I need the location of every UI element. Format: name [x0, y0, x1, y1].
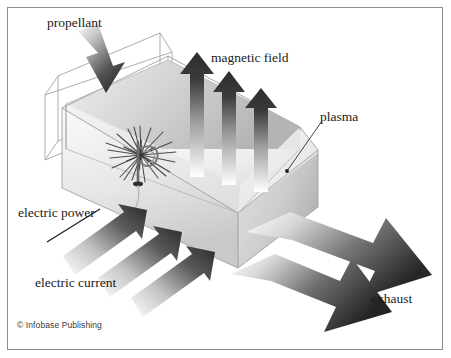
label-propellant: propellant [47, 16, 102, 30]
label-electric-power: electric power [18, 206, 95, 220]
figure-container: propellant magnetic field plasma electri… [0, 0, 451, 358]
magnetic-field-arrows [180, 52, 277, 192]
publisher-credit: © Infobase Publishing [17, 321, 102, 330]
exhaust-arrows [231, 212, 432, 332]
label-plasma: plasma [320, 110, 358, 124]
label-magnetic-field: magnetic field [211, 51, 289, 65]
label-exhaust: exhaust [371, 292, 412, 306]
label-electric-current: electric current [35, 276, 116, 290]
plasma-leader-dot [285, 169, 289, 173]
